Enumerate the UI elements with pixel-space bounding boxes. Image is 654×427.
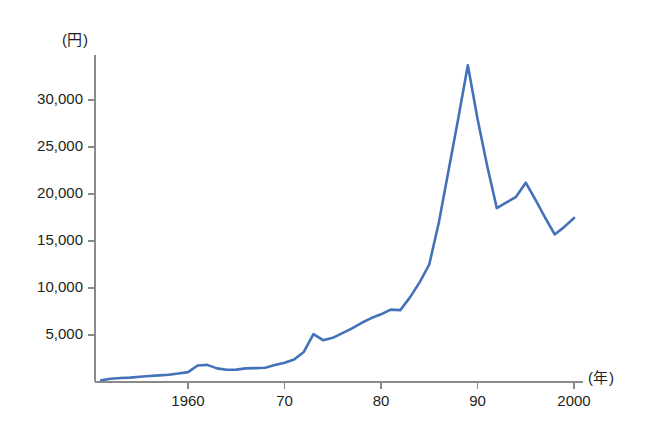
x-tick-label: 90: [448, 392, 508, 409]
x-tick-label: 1960: [158, 392, 218, 409]
y-tick-label: 15,000: [9, 231, 83, 248]
y-tick-label: 30,000: [9, 90, 83, 107]
y-tick-label: 25,000: [9, 137, 83, 154]
x-tick-label: 80: [351, 392, 411, 409]
x-tick-label: 70: [255, 392, 315, 409]
stock-price-line-chart: (円) (年) 5,00010,00015,00020,00025,00030,…: [0, 0, 654, 427]
chart-axes: [95, 55, 583, 382]
data-line: [101, 65, 574, 380]
x-tick-label: 2000: [544, 392, 604, 409]
y-tick-label: 10,000: [9, 278, 83, 295]
chart-data-series: [101, 65, 574, 380]
y-tick-label: 20,000: [9, 184, 83, 201]
y-tick-label: 5,000: [9, 325, 83, 342]
chart-plot-area: [0, 0, 654, 427]
chart-tick-marks: [88, 100, 574, 389]
